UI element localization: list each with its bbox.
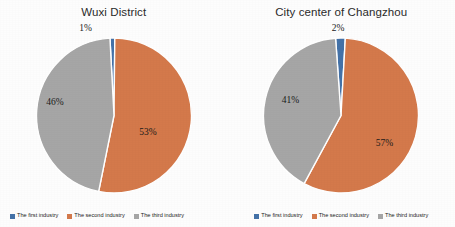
legend-right-label-0: The first industry [261,213,302,219]
legend-left-item-1[interactable]: The second industry [67,213,124,219]
legend-right-item-2[interactable]: The third industry [378,213,428,219]
legend-left-item-2[interactable]: The third industry [134,213,184,219]
pie-svg-left [35,37,192,194]
chart-panel-changzhou: City center of Changzhou 2% 57% 41% The … [228,0,455,227]
pie-chart-left: 1% 53% 46% [35,37,192,194]
legend-right-swatch-icon-2 [378,214,383,219]
legend-left-item-0[interactable]: The first industry [10,213,58,219]
legend-left: The first industryThe second industryThe… [8,213,184,219]
page-title-right: City center of Changzhou [228,6,455,18]
legend-left-label-0: The first industry [17,213,58,219]
legend-right-item-0[interactable]: The first industry [254,213,302,219]
legend-right-swatch-icon-0 [254,214,259,219]
two-pie-chart-figure: Wuxi District 1% 53% 46% The first indus… [0,0,455,227]
legend-right-swatch-icon-1 [312,214,317,219]
legend-right-label-2: The third industry [385,213,428,219]
slice-label-second-right: 57% [376,138,393,148]
legend-left-label-1: The second industry [74,213,124,219]
slice-label-first-left: 1% [79,23,92,33]
legend-right-item-1[interactable]: The second industry [312,213,369,219]
legend-left-label-2: The third industry [141,213,184,219]
chart-panel-wuxi: Wuxi District 1% 53% 46% The first indus… [0,0,228,227]
legend-left-swatch-icon-2 [134,214,139,219]
slice-label-third-right: 41% [282,95,299,105]
page-title-left: Wuxi District [0,6,228,18]
legend-right-label-1: The second industry [319,213,369,219]
legend-left-swatch-icon-1 [67,214,72,219]
slice-label-first-right: 2% [332,23,345,33]
pie-chart-right: 2% 57% 41% [263,37,420,194]
pie-left-slice-2[interactable] [36,38,114,191]
legend-left-swatch-icon-0 [10,214,15,219]
slice-label-second-left: 53% [139,127,156,137]
legend-right: The first industryThe second industryThe… [228,213,455,219]
slice-label-third-left: 46% [46,97,63,107]
pie-svg-right [263,37,420,194]
